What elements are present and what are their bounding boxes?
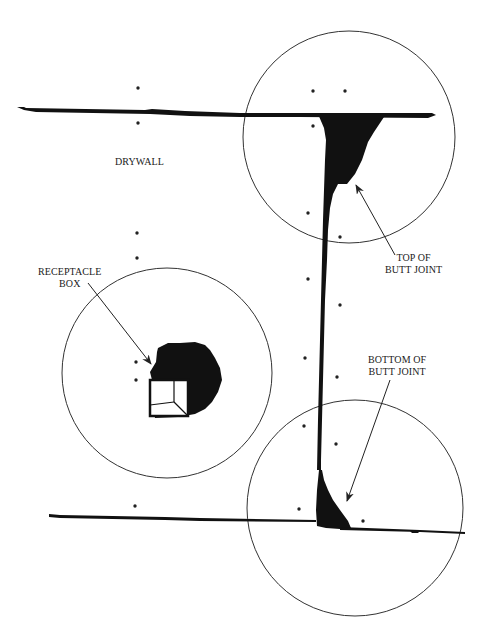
receptacle-arrow (88, 283, 151, 364)
top-of-butt-joint-label: TOP OF BUTT JOINT (385, 252, 442, 276)
butt-joint-vertical-seam (317, 114, 386, 470)
top-of-butt-joint-arrow (356, 185, 395, 255)
drywall-label: DRYWALL (115, 156, 164, 168)
receptacle-label-line2: BOX (38, 278, 102, 290)
receptacle-box-label: RECEPTACLE BOX (38, 266, 102, 290)
receptacle-box-icon (150, 380, 188, 416)
bottom-of-butt-joint-circle (247, 400, 463, 616)
bottom-of-butt-joint-label: BOTTOM OF BUTT JOINT (368, 354, 426, 378)
bottom-of-butt-joint-arrow (347, 380, 390, 501)
drywall-label-text: DRYWALL (115, 156, 164, 167)
top-label-line2: BUTT JOINT (385, 264, 442, 276)
bottom-label-line1: BOTTOM OF (368, 354, 426, 366)
drywall-diagram (0, 0, 497, 635)
bottom-horizontal-seam-right (340, 527, 465, 534)
top-label-line1: TOP OF (385, 252, 442, 264)
bottom-horizontal-seam (49, 514, 316, 522)
seam-blob (410, 531, 420, 533)
receptacle-label-line1: RECEPTACLE (38, 266, 102, 278)
bottom-butt-joint-wedge (316, 470, 351, 529)
bottom-label-line2: BUTT JOINT (368, 366, 426, 378)
